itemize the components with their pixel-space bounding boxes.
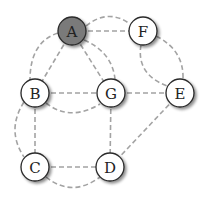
node-a: A xyxy=(58,17,86,45)
edge-a-b-curved xyxy=(30,33,58,80)
node-label: F xyxy=(138,23,148,41)
edge-a-g-curved xyxy=(84,40,115,79)
edge-b-c-curved xyxy=(15,102,24,157)
node-b: B xyxy=(21,79,49,107)
node-label: E xyxy=(175,85,186,103)
node-label: D xyxy=(104,159,116,177)
node-e: E xyxy=(166,79,194,107)
nodes-layer: AFBGECD xyxy=(21,17,194,181)
node-g: G xyxy=(97,79,125,107)
node-d: D xyxy=(96,153,124,181)
node-label: B xyxy=(29,85,40,103)
node-label: G xyxy=(105,85,117,103)
edge-f-e-curved-inner xyxy=(140,45,167,86)
node-f: F xyxy=(129,17,157,45)
edge-a-f-curved xyxy=(86,16,130,26)
node-label: A xyxy=(66,23,78,41)
edge-b-g-curved xyxy=(46,103,100,113)
edge-c-d-curved xyxy=(46,177,100,188)
edge-f-e-curved-outer xyxy=(156,36,183,79)
node-label: C xyxy=(29,159,40,177)
graph-diagram: AFBGECD xyxy=(0,0,209,203)
node-c: C xyxy=(21,153,49,181)
